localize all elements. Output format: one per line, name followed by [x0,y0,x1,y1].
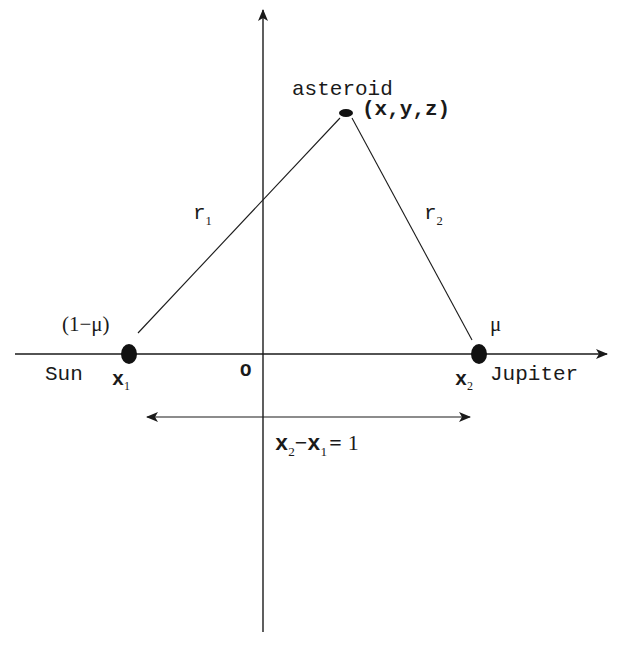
sep-x1-symbol: x [307,432,320,457]
r1-line [138,118,340,333]
separation-equation: x2−x1=1 [275,432,359,458]
sep-x2-symbol: x [275,432,288,457]
r2-line [352,118,472,340]
sep-value: 1 [348,430,359,455]
jupiter-body-icon [471,344,487,364]
sep-x2-subscript: 2 [288,444,295,459]
origin-label: O [240,362,251,381]
jupiter-label: Jupiter [490,364,578,385]
asteroid-coords-label: (x,y,z) [362,99,450,120]
x1-subscript: 1 [124,379,130,393]
r2-symbol: r [424,202,437,225]
jupiter-mass-label: μ [490,314,501,335]
sun-body-icon [121,344,137,364]
r1-symbol: r [193,202,206,225]
x2-subscript: 2 [467,379,473,393]
sep-equals: = [329,430,342,455]
r1-label: r1 [193,203,212,227]
sun-mass-label: (1−μ) [62,314,110,335]
asteroid-body-icon [339,109,353,117]
r1-subscript: 1 [206,214,212,228]
x2-symbol: x [455,368,467,391]
r2-subscript: 2 [437,214,443,228]
sep-minus: − [295,430,308,455]
r2-label: r2 [424,203,443,227]
sep-x1-subscript: 1 [321,444,328,459]
jupiter-position-label: x2 [455,370,473,392]
x1-symbol: x [112,368,124,391]
asteroid-label: asteroid [292,79,393,100]
sun-position-label: x1 [112,370,130,392]
sun-label: Sun [45,364,83,385]
